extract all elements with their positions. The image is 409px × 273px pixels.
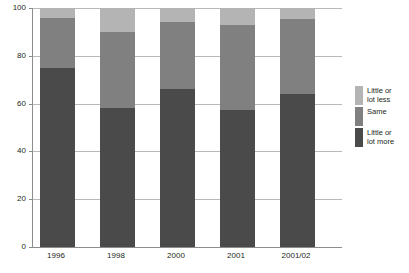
x-axis-label: 2001/02 [266, 252, 326, 260]
bar-segment [280, 19, 315, 94]
legend-swatch-icon [355, 128, 363, 147]
legend-item[interactable]: Little or lot more [355, 128, 409, 147]
bar-segment [40, 8, 75, 18]
legend-item[interactable]: Same [355, 107, 409, 126]
bar-segment [220, 25, 255, 110]
bar-segment [40, 18, 75, 68]
x-axis-label: 1996 [26, 252, 86, 260]
x-axis-label: 2000 [146, 252, 206, 260]
gridline [33, 247, 342, 248]
y-axis-label: 0 [22, 243, 26, 251]
y-axis-tick [29, 8, 33, 9]
y-axis-tick [29, 151, 33, 152]
y-axis-tick [29, 56, 33, 57]
y-axis-label: 60 [17, 100, 26, 108]
bar-segment [160, 89, 195, 247]
x-axis-label: 2001 [206, 252, 266, 260]
bar-1996[interactable] [40, 8, 75, 247]
bar-segment [160, 8, 195, 22]
bar-segment [100, 8, 135, 32]
bar-2001-02[interactable] [280, 8, 315, 247]
bar-segment [280, 8, 315, 19]
bar-segment [280, 94, 315, 247]
y-axis-label: 20 [17, 195, 26, 203]
plot-area: 020406080100 [32, 8, 342, 247]
legend-label: Little or lot less [367, 86, 392, 104]
legend-swatch-icon [355, 107, 363, 126]
bar-segment [220, 8, 255, 25]
bar-segment [220, 110, 255, 247]
chart-legend: Little or lot lessSameLittle or lot more [355, 86, 409, 149]
y-axis-label: 80 [17, 52, 26, 60]
bar-segment [160, 22, 195, 89]
bar-segment [100, 32, 135, 108]
x-axis-label: 1998 [86, 252, 146, 260]
y-axis-tick [29, 247, 33, 248]
bar-1998[interactable] [100, 8, 135, 247]
y-axis-tick [29, 199, 33, 200]
legend-swatch-icon [355, 86, 363, 105]
legend-item[interactable]: Little or lot less [355, 86, 409, 105]
stacked-bar-chart: 020406080100 Little or lot lessSameLittl… [0, 0, 409, 273]
y-axis-label: 40 [17, 147, 26, 155]
bar-segment [100, 108, 135, 247]
y-axis-tick [29, 104, 33, 105]
y-axis-label: 100 [13, 4, 26, 12]
bar-segment [40, 68, 75, 247]
legend-label: Same [367, 107, 387, 116]
bar-2000[interactable] [160, 8, 195, 247]
bar-2001[interactable] [220, 8, 255, 247]
legend-label: Little or lot more [367, 128, 394, 146]
